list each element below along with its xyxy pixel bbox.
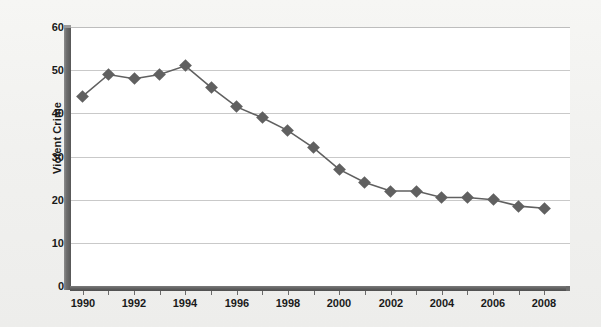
y-tick-label-60: 60 (34, 22, 64, 33)
x-tick-mark-1999 (314, 291, 315, 295)
x-tick-mark-1990 (83, 291, 84, 295)
chart-container: Violent Crime Victimization Rates per 1,… (18, 6, 584, 311)
x-tick-mark-1997 (262, 291, 263, 295)
x-tick-mark-2002 (391, 291, 392, 295)
x-tick-mark-1991 (108, 291, 109, 295)
y-tick-label-10: 10 (34, 238, 64, 249)
x-tick-mark-2006 (493, 291, 494, 295)
x-tick-mark-2005 (467, 291, 468, 295)
x-tick-mark-2008 (544, 291, 545, 295)
y-tick-label-30: 30 (34, 152, 64, 163)
x-tick-mark-2003 (416, 291, 417, 295)
x-axis-tick-labels: 1990199219941996199820002002200420062008 (70, 291, 575, 315)
x-tick-mark-1995 (211, 291, 212, 295)
x-tick-label-1996: 1996 (217, 297, 257, 309)
x-tick-label-2006: 2006 (473, 297, 513, 309)
x-tick-mark-2001 (365, 291, 366, 295)
x-tick-label-1992: 1992 (114, 297, 154, 309)
chart-screenshot: Violent Crime Victimization Rates per 1,… (0, 0, 601, 327)
x-tick-mark-1992 (134, 291, 135, 295)
plot-area (70, 27, 570, 286)
y-axis-line (64, 25, 71, 290)
x-tick-mark-2007 (519, 291, 520, 295)
x-tick-label-1998: 1998 (268, 297, 308, 309)
y-tick-label-50: 50 (34, 65, 64, 76)
x-tick-mark-1993 (160, 291, 161, 295)
x-tick-mark-1996 (237, 291, 238, 295)
x-tick-label-2008: 2008 (524, 297, 564, 309)
y-tick-label-0: 0 (34, 281, 64, 292)
y-axis-tick-labels: 6050403020100 (26, 6, 64, 311)
y-tick-label-40: 40 (34, 108, 64, 119)
y-axis-cap (64, 25, 71, 28)
x-tick-label-2002: 2002 (371, 297, 411, 309)
x-tick-mark-1994 (185, 291, 186, 295)
x-tick-mark-2004 (442, 291, 443, 295)
x-tick-label-1990: 1990 (63, 297, 103, 309)
x-tick-label-2000: 2000 (319, 297, 359, 309)
x-tick-mark-1998 (288, 291, 289, 295)
x-tick-label-2004: 2004 (422, 297, 462, 309)
x-tick-mark-2000 (339, 291, 340, 295)
series-line (70, 27, 570, 286)
x-tick-label-1994: 1994 (165, 297, 205, 309)
y-tick-label-20: 20 (34, 195, 64, 206)
